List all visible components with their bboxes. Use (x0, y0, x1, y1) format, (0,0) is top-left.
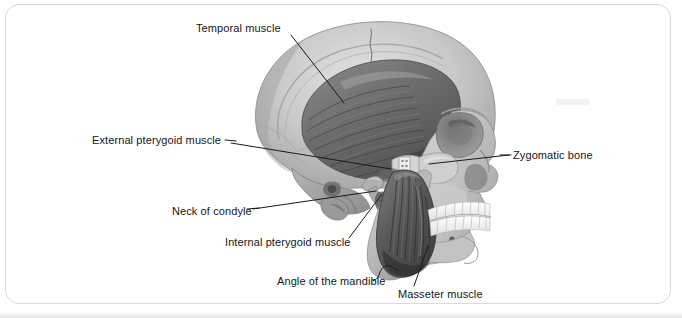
figure-page: Temporal muscle External pterygoid muscl… (0, 0, 682, 318)
page-bottom-edge (0, 312, 682, 318)
orbit-deep (446, 123, 472, 145)
label-masseter-muscle: Masseter muscle (398, 288, 483, 301)
label-neck-of-condyle: Neck of condyle (172, 205, 252, 218)
nasal-aperture (465, 165, 487, 190)
auditory-meatus-inner (328, 185, 337, 193)
label-external-pterygoid-muscle: External pterygoid muscle (92, 134, 221, 147)
label-temporal-muscle: Temporal muscle (196, 22, 281, 35)
leader-stub-external-pterygoid (225, 140, 236, 141)
label-internal-pterygoid-muscle: Internal pterygoid muscle (225, 236, 350, 249)
label-zygomatic-bone: Zygomatic bone (513, 149, 593, 162)
label-angle-of-the-mandible: Angle of the mandible (277, 275, 386, 288)
